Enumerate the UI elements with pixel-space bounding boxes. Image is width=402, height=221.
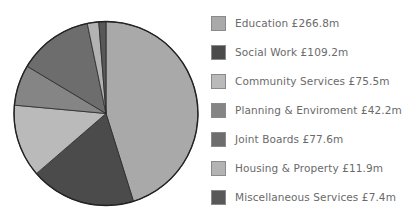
legend-swatch <box>211 103 226 118</box>
legend-item-housing-property: Housing & Property £11.9m <box>211 161 402 190</box>
legend-item-miscellaneous-services: Miscellaneous Services £7.4m <box>211 190 402 219</box>
legend-label: Housing & Property £11.9m <box>235 161 383 176</box>
legend-label: Social Work £109.2m <box>235 45 348 60</box>
legend-label: Planning & Enviroment £42.2m <box>235 103 402 118</box>
legend-label: Joint Boards £77.6m <box>235 132 343 147</box>
pie-chart <box>0 0 210 221</box>
legend-swatch <box>211 16 226 31</box>
legend-item-social-work: Social Work £109.2m <box>211 45 402 74</box>
legend-item-education: Education £266.8m <box>211 16 402 45</box>
legend-swatch <box>211 161 226 176</box>
chart-legend: Education £266.8m Social Work £109.2m Co… <box>211 16 402 219</box>
legend-swatch <box>211 45 226 60</box>
legend-item-planning-environment: Planning & Enviroment £42.2m <box>211 103 402 132</box>
legend-swatch <box>211 132 226 147</box>
legend-label: Education £266.8m <box>235 16 339 31</box>
legend-label: Miscellaneous Services £7.4m <box>235 190 396 205</box>
legend-item-community-services: Community Services £75.5m <box>211 74 402 103</box>
legend-item-joint-boards: Joint Boards £77.6m <box>211 132 402 161</box>
legend-swatch <box>211 74 226 89</box>
legend-label: Community Services £75.5m <box>235 74 390 89</box>
legend-swatch <box>211 190 226 205</box>
